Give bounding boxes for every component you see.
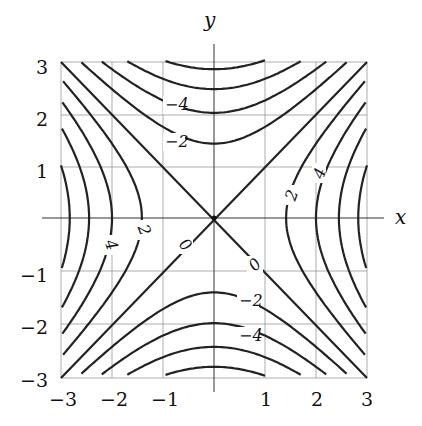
contour-label: −2 [239, 291, 263, 310]
x-axis-label: x [395, 205, 406, 229]
x-tick-label: −1 [151, 388, 179, 410]
y-tick-label: 2 [36, 108, 48, 130]
x-tick-label: 2 [311, 388, 323, 410]
origin-point [212, 216, 217, 221]
y-tick-label: 1 [36, 160, 48, 182]
y-tick-label: 3 [36, 56, 48, 78]
contour-plot: −4 −2 2 4 4 2 0 0 −2 −4 −3 −2 −1 1 2 3 3… [0, 0, 422, 426]
contour-label: −2 [165, 132, 189, 151]
contour-level-8 [358, 165, 367, 268]
y-axis-label: y [203, 8, 216, 32]
x-tick-label: 3 [361, 388, 373, 410]
y-tick-label: −3 [20, 369, 48, 391]
x-tick-label: 1 [260, 388, 272, 410]
x-tick-label: −2 [100, 388, 128, 410]
y-tick-labels: 3 2 1 −1 −2 −3 [20, 56, 48, 391]
contour-level--8 [166, 60, 266, 69]
contour-label: −4 [239, 326, 263, 345]
contour-label: −4 [165, 95, 189, 114]
contour-level-8 [61, 165, 70, 268]
y-tick-label: −1 [20, 264, 48, 286]
x-tick-labels: −3 −2 −1 1 2 3 [49, 388, 373, 410]
contour-level--8 [166, 367, 266, 376]
y-tick-label: −2 [20, 316, 48, 338]
x-tick-label: −3 [49, 388, 77, 410]
